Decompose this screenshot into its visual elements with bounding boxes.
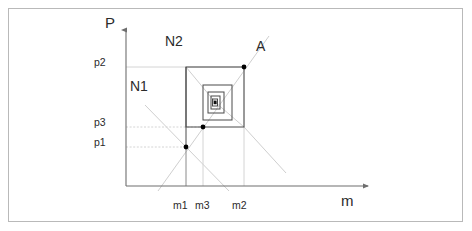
axes — [126, 30, 368, 186]
y-axis-title: P — [105, 14, 115, 31]
point-p3-m3 — [201, 125, 206, 130]
plot-canvas — [0, 0, 472, 231]
spiral-rectangles — [186, 67, 244, 127]
x-axis-title: m — [341, 192, 354, 209]
region-label-n1: N1 — [130, 78, 148, 94]
y-tick-label-p2: p2 — [94, 56, 106, 68]
spiral-rect-1 — [186, 67, 244, 127]
y-tick-label-p1: p1 — [94, 136, 106, 148]
marked-points — [184, 65, 247, 150]
x-tick-label-m2: m2 — [232, 199, 247, 211]
x-tick-label-m3: m3 — [195, 199, 210, 211]
x-tick-label-m1: m1 — [173, 199, 188, 211]
y-tick-label-p3: p3 — [94, 116, 106, 128]
point-label-a: A — [256, 38, 265, 54]
spiral-diagonal-extension — [244, 127, 286, 173]
point-p1-m1 — [184, 145, 189, 150]
point-a — [242, 65, 247, 70]
spiral-diagonal-bottom-right — [215, 102, 244, 127]
spiral-core — [214, 101, 217, 105]
region-label-n2: N2 — [165, 33, 183, 49]
